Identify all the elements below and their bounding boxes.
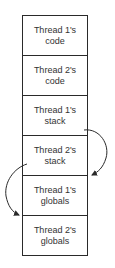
segment-label-line2: stack <box>44 116 65 127</box>
segment-label-line2: code <box>45 36 65 47</box>
segment-thread1-stack: Thread 1's stack <box>23 96 87 136</box>
segment-label-line2: globals <box>41 236 70 247</box>
segment-label-line2: stack <box>44 156 65 167</box>
segment-label-line1: Thread 2's <box>34 225 76 236</box>
segment-label-line1: Thread 2's <box>34 65 76 76</box>
segment-label-line1: Thread 1's <box>34 185 76 196</box>
segment-thread2-globals: Thread 2's globals <box>23 216 87 255</box>
segment-label-line2: globals <box>41 196 70 207</box>
segment-thread1-code: Thread 1's code <box>23 16 87 56</box>
segment-label-line1: Thread 1's <box>34 105 76 116</box>
segment-thread2-code: Thread 2's code <box>23 56 87 96</box>
segment-thread1-globals: Thread 1's globals <box>23 176 87 216</box>
segment-label-line2: code <box>45 76 65 87</box>
segment-label-line1: Thread 2's <box>34 145 76 156</box>
segment-thread2-stack: Thread 2's stack <box>23 136 87 176</box>
memory-layout-stack: Thread 1's code Thread 2's code Thread 1… <box>22 15 88 256</box>
segment-label-line1: Thread 1's <box>34 25 76 36</box>
